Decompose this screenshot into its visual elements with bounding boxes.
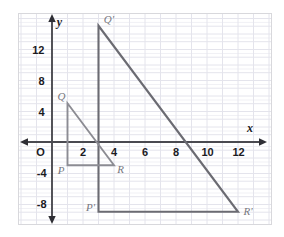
coordinate-plane-svg: 2 4 6 8 10 12 12 8 4 -4 -8 O x y Q P R Q… <box>0 0 284 237</box>
origin-label: O <box>36 146 45 158</box>
x-tick-10: 10 <box>201 146 213 158</box>
x-tick-2: 2 <box>80 146 86 158</box>
y-tick-4: 4 <box>38 106 45 118</box>
figure-canvas: 2 4 6 8 10 12 12 8 4 -4 -8 O x y Q P R Q… <box>0 0 284 237</box>
x-axis-arrow-right <box>259 138 267 145</box>
vertex-label-r-prime: R' <box>242 205 253 217</box>
y-tick-minus-8: -8 <box>37 198 47 210</box>
grid-group <box>19 14 271 224</box>
x-tick-8: 8 <box>173 146 179 158</box>
y-tick-minus-4: -4 <box>37 167 48 179</box>
x-axis-label: x <box>246 121 253 135</box>
y-tick-12: 12 <box>32 44 44 56</box>
y-tick-8: 8 <box>38 75 44 87</box>
y-axis-label: y <box>55 15 63 29</box>
vertex-label-p: P <box>57 164 65 176</box>
x-tick-12: 12 <box>232 146 244 158</box>
vertex-label-p-prime: P' <box>85 201 96 213</box>
vertex-label-q-prime: Q' <box>104 13 115 25</box>
vertex-label-r: R <box>116 163 124 175</box>
x-tick-4: 4 <box>111 146 118 158</box>
vertex-label-q: Q <box>58 90 66 102</box>
x-tick-6: 6 <box>142 146 148 158</box>
